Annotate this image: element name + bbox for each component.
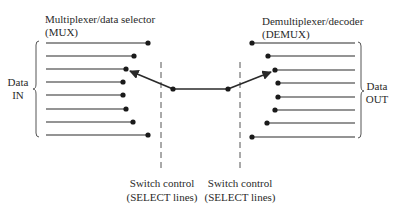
- mux-title-line1: Multiplexer/data selector: [45, 13, 156, 25]
- demux-title: Demultiplexer/decoder (DEMUX): [262, 15, 364, 41]
- data-in-label-line1: Data: [8, 76, 29, 88]
- switch-control-left: Switch control (SELECT lines): [127, 177, 198, 204]
- demux-contact-dot-8: [249, 134, 254, 139]
- mux-contact-dot-2: [131, 53, 136, 58]
- switch-control-right: Switch control (SELECT lines): [205, 177, 276, 204]
- demux-contact-dot-7: [264, 120, 269, 125]
- mux-contact-dot-4: [120, 79, 125, 84]
- data-in-group: Data IN: [8, 41, 39, 137]
- demux-title-line1: Demultiplexer/decoder: [262, 15, 364, 27]
- demux-contact-dot-5: [275, 94, 280, 99]
- switch-control-left-line2: (SELECT lines): [127, 191, 198, 204]
- mux-title-line2: (MUX): [45, 26, 78, 39]
- demux-switch-arm: [228, 72, 271, 89]
- mux-contact-dot-5: [120, 92, 125, 97]
- data-out-label-line2: OUT: [366, 93, 389, 105]
- demux-contact-dot-2: [265, 53, 270, 58]
- data-out-group: Data OUT: [358, 42, 389, 138]
- data-out-brace-icon: [358, 42, 364, 138]
- mux-contact-dot-7: [130, 119, 135, 124]
- data-in-brace-icon: [33, 41, 39, 137]
- demux-contact-dot-1: [249, 40, 254, 45]
- data-out-label-line1: Data: [367, 80, 388, 92]
- rotary-switch: [130, 71, 271, 92]
- mux-contact-dot-8: [145, 132, 150, 137]
- switch-control-right-line2: (SELECT lines): [205, 191, 276, 204]
- mux-switch-arm: [130, 71, 173, 89]
- demux-title-line2: (DEMUX): [262, 28, 310, 41]
- demux-output-lines: [249, 40, 355, 139]
- switch-control-left-line1: Switch control: [130, 177, 194, 189]
- mux-contact-dot-6: [123, 106, 128, 111]
- mux-contact-dot-1: [145, 40, 150, 45]
- mux-demux-diagram: Multiplexer/data selector (MUX) Demultip…: [0, 0, 398, 212]
- demux-pivot-dot: [225, 86, 230, 91]
- mux-input-lines: [46, 40, 151, 137]
- demux-contact-dot-6: [272, 107, 277, 112]
- data-in-label-line2: IN: [12, 89, 24, 101]
- demux-contact-dot-4: [275, 80, 280, 85]
- demux-contact-dot-3: [272, 67, 277, 72]
- mux-pivot-dot: [170, 86, 175, 91]
- switch-control-right-line1: Switch control: [208, 177, 272, 189]
- mux-title: Multiplexer/data selector (MUX): [45, 13, 156, 39]
- mux-contact-dot-3: [123, 66, 128, 71]
